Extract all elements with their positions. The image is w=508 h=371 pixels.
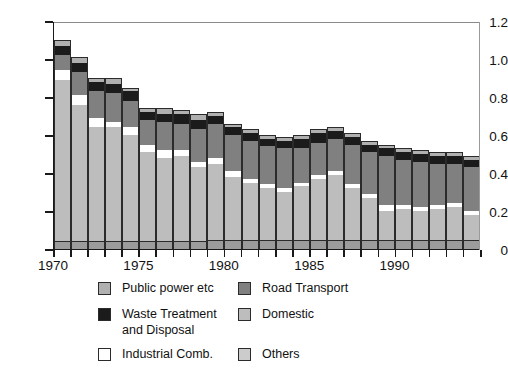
bar-segment — [310, 179, 327, 240]
bar-1989 — [378, 22, 395, 249]
bar-segment — [327, 139, 344, 171]
bar-segment — [207, 116, 224, 124]
bar-segment — [293, 240, 310, 250]
bar-segment — [446, 240, 463, 250]
bar-1972 — [88, 22, 105, 249]
bar-segment — [88, 91, 105, 118]
bar-segment — [446, 156, 463, 164]
bar-segment — [139, 152, 156, 241]
bar-1990 — [395, 22, 412, 249]
x-axis-tick — [429, 250, 431, 257]
legend-item: Domestic — [238, 307, 378, 336]
bar-segment — [156, 158, 173, 242]
bar-segment — [71, 105, 88, 242]
bar-1975 — [139, 22, 156, 249]
y-axis-tick — [45, 97, 53, 99]
bar-segment — [344, 145, 361, 185]
bar-1983 — [276, 22, 293, 249]
bar-segment — [224, 240, 241, 250]
bar-segment — [122, 135, 139, 241]
bar-1979 — [207, 22, 224, 249]
bar-segment — [54, 80, 71, 242]
bar-segment — [361, 145, 378, 153]
bar-segment — [207, 164, 224, 240]
bar-segment — [378, 240, 395, 250]
bar-segment — [105, 241, 122, 249]
bar-segment — [173, 156, 190, 242]
bar-1991 — [412, 22, 429, 249]
bar-segment — [242, 183, 259, 240]
legend-item: Waste Treatment and Disposal — [98, 307, 238, 338]
bar-segment — [412, 162, 429, 208]
bar-segment — [190, 129, 207, 161]
x-axis-label: 1975 — [123, 258, 153, 273]
bar-segment — [429, 240, 446, 250]
legend-item-label: Others — [262, 347, 300, 362]
plot-area — [53, 22, 480, 250]
bar-segment — [463, 240, 480, 250]
bar-segment — [259, 146, 276, 184]
legend-swatch-public-power — [98, 282, 111, 295]
x-axis-tick — [138, 250, 140, 257]
bar-segment — [395, 152, 412, 160]
bar-1992 — [429, 22, 446, 249]
bar-segment — [207, 240, 224, 250]
chart-legend: Public power etcRoad TransportWaste Trea… — [98, 281, 398, 371]
bar-segment — [71, 63, 88, 73]
bar-segment — [88, 127, 105, 241]
bar-segment — [207, 124, 224, 158]
x-axis-tick — [173, 250, 175, 257]
bar-segment — [71, 72, 88, 95]
legend-item: Industrial Comb. — [98, 347, 238, 362]
bar-1976 — [156, 22, 173, 249]
x-axis-tick — [378, 250, 380, 257]
bar-segment — [242, 141, 259, 179]
legend-item-label: Road Transport — [262, 281, 348, 296]
x-axis-tick — [275, 250, 277, 257]
bar-segment — [156, 114, 173, 122]
bar-segment — [71, 95, 88, 105]
legend-item-label: Industrial Comb. — [122, 347, 213, 362]
bar-1994 — [463, 22, 480, 249]
bar-segment — [446, 207, 463, 239]
x-axis-tick — [480, 250, 482, 257]
x-axis-tick — [326, 250, 328, 257]
legend-item-label: Public power etc — [122, 281, 214, 296]
bar-1973 — [105, 22, 122, 249]
bar-segment — [344, 240, 361, 250]
bar-segment — [105, 127, 122, 241]
bar-segment — [429, 164, 446, 206]
bar-segment — [139, 120, 156, 145]
bar-1978 — [190, 22, 207, 249]
bar-segment — [463, 160, 480, 168]
bar-segment — [361, 198, 378, 240]
bar-segment — [429, 156, 446, 164]
legend-swatch-road-transport — [238, 282, 251, 295]
y-axis-tick — [45, 249, 53, 251]
bar-segment — [429, 209, 446, 239]
bar-segment — [310, 133, 327, 143]
x-axis-tick — [463, 250, 465, 257]
x-axis-tick — [258, 250, 260, 257]
bar-segment — [190, 167, 207, 241]
bar-segment — [259, 188, 276, 239]
bar-segment — [378, 156, 395, 205]
legend-swatch-domestic — [238, 308, 251, 321]
bar-segment — [327, 240, 344, 250]
x-axis-label: 1980 — [209, 258, 239, 273]
plot-right-rule — [479, 22, 480, 250]
bar-segment — [276, 141, 293, 149]
bar-segment — [156, 241, 173, 249]
legend-item: Public power etc — [98, 281, 238, 296]
bar-1987 — [344, 22, 361, 249]
bar-1988 — [361, 22, 378, 249]
bar-1982 — [259, 22, 276, 249]
bar-segment — [378, 148, 395, 156]
legend-item: Road Transport — [238, 281, 378, 296]
x-axis-tick — [395, 250, 397, 257]
x-axis-tick — [292, 250, 294, 257]
legend-item-label: Domestic — [262, 307, 314, 322]
x-axis-tick — [53, 250, 55, 257]
bar-segment — [276, 192, 293, 240]
bar-segment — [54, 241, 71, 249]
